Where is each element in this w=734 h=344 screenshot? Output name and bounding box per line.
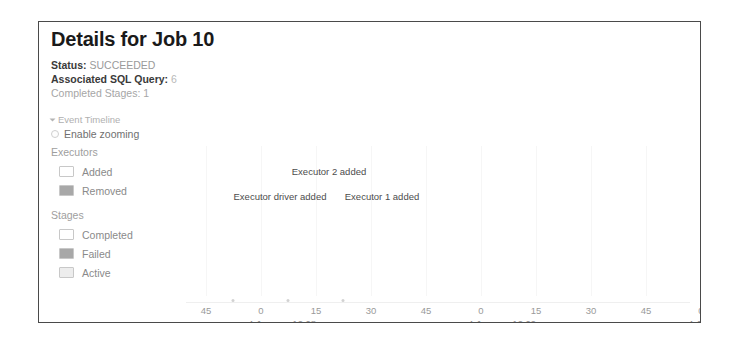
x-axis-tick-label: 45	[201, 305, 212, 316]
legend-item-failed[interactable]: Failed	[51, 244, 186, 263]
summary-value-sql-query-link[interactable]: 6	[171, 73, 177, 85]
axis-marker-dot	[232, 299, 235, 302]
caret-down-icon	[50, 118, 56, 121]
job-details-panel: Details for Job 10 Status: SUCCEEDED Ass…	[38, 21, 701, 323]
legend-label-active: Active	[82, 267, 111, 279]
axis-marker-dot	[287, 299, 290, 302]
x-axis-date-label: 4 Janu	[688, 318, 701, 323]
screenshot-root: Details for Job 10 Status: SUCCEEDED Ass…	[0, 0, 734, 344]
timeline-event-label[interactable]: Executor driver added	[234, 191, 327, 202]
event-timeline-toggle[interactable]: Event Timeline	[51, 114, 120, 125]
legend-item-added[interactable]: Added	[51, 162, 186, 181]
timeline-plot[interactable]: Executor 2 addedExecutor driver addedExe…	[186, 146, 690, 296]
x-axis-date-label: 4 January 12:08	[248, 318, 316, 323]
gridline	[646, 146, 647, 296]
legend-group-title-stages: Stages	[51, 209, 186, 221]
gridline	[481, 146, 482, 296]
gridline	[206, 146, 207, 296]
legend-label-removed: Removed	[82, 185, 127, 197]
legend-group-executors: Executors Added Removed	[51, 146, 186, 200]
gridline	[591, 146, 592, 296]
summary-key-status: Status:	[51, 59, 87, 71]
x-axis-tick-label: 0	[258, 305, 263, 316]
page-title: Details for Job 10	[51, 28, 214, 51]
timeline-event-label[interactable]: Executor 1 added	[345, 191, 419, 202]
legend-swatch-removed	[59, 185, 74, 196]
enable-zooming-row[interactable]: Enable zooming	[51, 128, 139, 140]
axis-line	[186, 302, 690, 303]
summary-row-completed-stages: Completed Stages: 1	[51, 86, 451, 100]
legend-group-stages: Stages Completed Failed Active	[51, 209, 186, 282]
timeline-x-axis: 450153045015304504 January 12:084 Januar…	[186, 296, 690, 323]
legend-item-completed[interactable]: Completed	[51, 225, 186, 244]
x-axis-tick-label: 15	[531, 305, 542, 316]
x-axis-tick-label: 45	[421, 305, 432, 316]
legend-label-completed: Completed	[82, 229, 133, 241]
x-axis-tick-label: 0	[478, 305, 483, 316]
event-timeline-label: Event Timeline	[58, 114, 120, 125]
legend-item-removed[interactable]: Removed	[51, 181, 186, 200]
x-axis-tick-label: 30	[586, 305, 597, 316]
enable-zooming-label: Enable zooming	[64, 128, 139, 140]
chart-legend: Executors Added Removed Stages Completed	[51, 146, 186, 282]
summary-value-completed-stages: 1	[143, 87, 149, 99]
gridline	[536, 146, 537, 296]
event-timeline-chart: Executors Added Removed Stages Completed	[51, 146, 690, 318]
legend-label-added: Added	[82, 166, 112, 178]
gridline	[261, 146, 262, 296]
legend-swatch-completed	[59, 229, 74, 240]
axis-marker-dot	[342, 299, 345, 302]
x-axis-tick-label: 45	[641, 305, 652, 316]
legend-item-active[interactable]: Active	[51, 263, 186, 282]
timeline-event-label[interactable]: Executor 2 added	[292, 166, 366, 177]
summary-row-status: Status: SUCCEEDED	[51, 58, 451, 72]
legend-swatch-active	[59, 267, 74, 278]
summary-row-sql-query: Associated SQL Query: 6	[51, 72, 451, 86]
legend-swatch-failed	[59, 248, 74, 259]
gridline	[426, 146, 427, 296]
summary-value-status: SUCCEEDED	[90, 59, 156, 71]
checkbox-icon[interactable]	[51, 130, 59, 138]
summary-key-sql-query: Associated SQL Query:	[51, 73, 168, 85]
job-summary: Status: SUCCEEDED Associated SQL Query: …	[51, 58, 451, 100]
x-axis-date-label: 4 January 12:09	[468, 318, 536, 323]
x-axis-tick-label: 0	[698, 305, 701, 316]
x-axis-tick-label: 30	[366, 305, 377, 316]
legend-label-failed: Failed	[82, 248, 111, 260]
legend-swatch-added	[59, 166, 74, 177]
legend-group-title-executors: Executors	[51, 146, 186, 158]
summary-key-completed-stages: Completed Stages:	[51, 87, 140, 99]
x-axis-tick-label: 15	[311, 305, 322, 316]
gridline	[371, 146, 372, 296]
